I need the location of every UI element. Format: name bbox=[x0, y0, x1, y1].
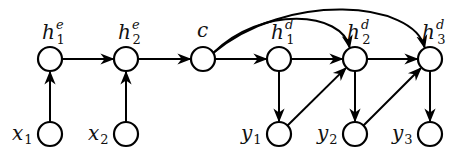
node-x1 bbox=[38, 122, 62, 146]
label-h3d: hd3 bbox=[422, 17, 446, 47]
node-h3d bbox=[418, 47, 442, 71]
label-h2e: he2 bbox=[118, 17, 141, 47]
node-y1 bbox=[267, 122, 291, 146]
node-c bbox=[191, 47, 215, 71]
node-y3 bbox=[418, 122, 442, 146]
node-x2 bbox=[114, 122, 138, 146]
label-h2d: hd2 bbox=[347, 17, 371, 47]
node-h2e bbox=[114, 47, 138, 71]
node-h2d bbox=[343, 47, 367, 71]
node-h1d bbox=[267, 47, 291, 71]
label-x1: x1 bbox=[12, 121, 33, 147]
label-x2: x2 bbox=[88, 121, 109, 147]
edge-y1-to-h2d bbox=[288, 68, 346, 125]
node-y2 bbox=[343, 122, 367, 146]
node-h1e bbox=[38, 47, 62, 71]
label-h1e: he1 bbox=[42, 17, 65, 47]
edge-y2-to-h3d bbox=[363, 68, 420, 125]
edges bbox=[50, 10, 430, 126]
label-y3: y3 bbox=[391, 121, 413, 147]
label-c: c bbox=[197, 18, 208, 42]
label-y1: y1 bbox=[240, 121, 262, 147]
edge-c-to-h3d bbox=[213, 10, 424, 53]
label-h1d: hd1 bbox=[271, 17, 295, 47]
label-y2: y2 bbox=[316, 121, 338, 147]
labels: x1x2he1he2chd1hd2hd3y1y2y3 bbox=[12, 17, 446, 147]
seq2seq-diagram: x1x2he1he2chd1hd2hd3y1y2y3 bbox=[0, 0, 459, 158]
